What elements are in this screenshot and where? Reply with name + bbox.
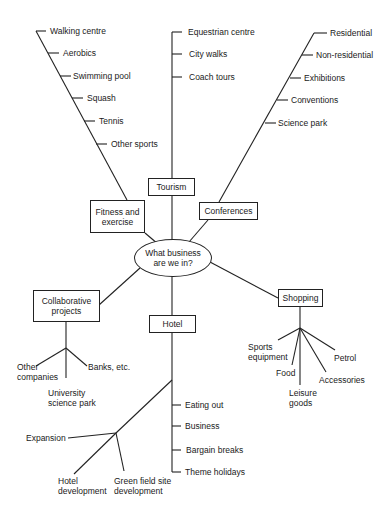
center-label: What business are we in? xyxy=(145,248,201,268)
collaborative-item-banks: Banks, etc. xyxy=(88,362,130,372)
conferences-label: Conferences xyxy=(204,206,252,216)
shopping-item-leisure-goods: Leisure goods xyxy=(289,388,323,408)
hotel-item-business: Business xyxy=(185,421,220,431)
shopping-item-sports-equipment: Sports equipment xyxy=(248,342,294,362)
fitness-item-squash: Squash xyxy=(87,93,116,103)
collaborative-item-university-science-park: University science park xyxy=(48,388,98,408)
shopping-box: Shopping xyxy=(278,289,323,307)
tourism-item-city-walks: City walks xyxy=(189,49,227,59)
fitness-item-swimming-pool: Swimming pool xyxy=(73,71,131,81)
conferences-box: Conferences xyxy=(199,202,258,220)
tourism-label: Tourism xyxy=(157,182,187,192)
collaborative-item-other-companies: Other companies xyxy=(17,362,57,382)
fitness-item-walking-centre: Walking centre xyxy=(50,26,106,36)
shopping-label: Shopping xyxy=(283,293,319,303)
hotel-item-theme-holidays: Theme holidays xyxy=(185,467,245,477)
fitness-item-other-sports: Other sports xyxy=(111,139,158,149)
hotel-item-bargain-breaks: Bargain breaks xyxy=(186,445,243,455)
fitness-item-aerobics: Aerobics xyxy=(63,48,96,58)
conferences-item-non-residential: Non-residential xyxy=(316,50,373,60)
expansion-item-green-field-site: Green field site development xyxy=(114,476,174,496)
conferences-item-conventions: Conventions xyxy=(291,95,338,105)
shopping-item-food: Food xyxy=(276,368,295,378)
hotel-item-eating-out: Eating out xyxy=(185,400,223,410)
hotel-box: Hotel xyxy=(149,315,196,333)
tourism-item-equestrian-centre: Equestrian centre xyxy=(188,27,255,37)
collaborative-box: Collaborative projects xyxy=(33,290,100,322)
shopping-item-petrol: Petrol xyxy=(334,353,356,363)
collaborative-label: Collaborative projects xyxy=(39,296,95,316)
tourism-item-coach-tours: Coach tours xyxy=(189,72,235,82)
fitness-box: Fitness and exercise xyxy=(90,200,145,233)
tourism-box: Tourism xyxy=(148,178,195,196)
expansion-label: Expansion xyxy=(26,433,66,443)
center-ellipse: What business are we in? xyxy=(134,239,212,277)
conferences-item-residential: Residential xyxy=(330,28,372,38)
shopping-item-accessories: Accessories xyxy=(319,375,365,385)
conferences-item-science-park: Science park xyxy=(278,118,327,128)
fitness-item-tennis: Tennis xyxy=(99,116,124,126)
fitness-label: Fitness and exercise xyxy=(96,207,140,227)
expansion-item-hotel-development: Hotel development xyxy=(58,476,108,496)
hotel-label: Hotel xyxy=(163,319,183,329)
conferences-item-exhibitions: Exhibitions xyxy=(304,73,345,83)
